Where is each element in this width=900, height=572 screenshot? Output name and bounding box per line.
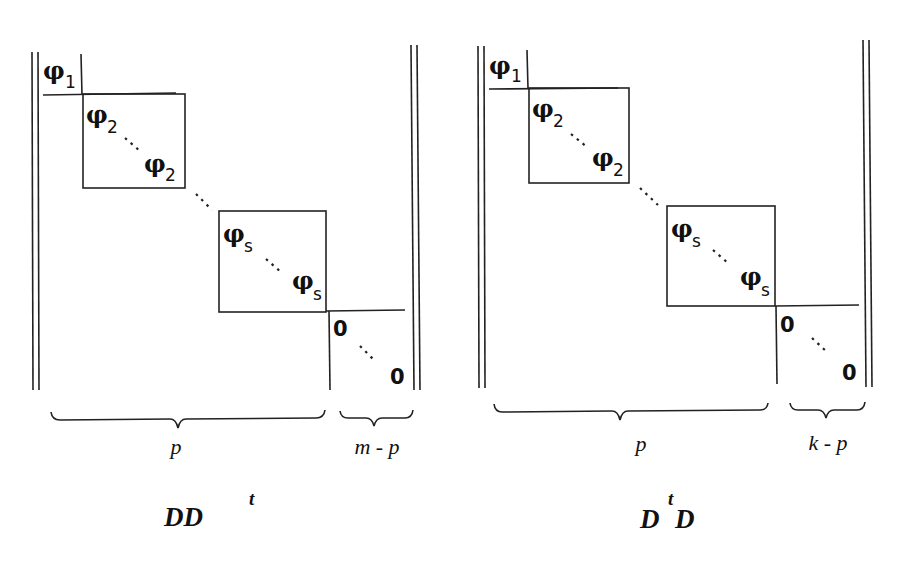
phi2-top-subscript: 2: [553, 111, 564, 131]
zero-top: 0: [333, 317, 348, 341]
phis-top-subscript: s: [244, 236, 253, 256]
inter-block-diagonal-ellipsis: [640, 188, 658, 205]
phi2-top-subscript: 2: [107, 117, 118, 137]
phi2-bottom-symbol: φ: [144, 149, 166, 178]
right-norm-bar-outer: [863, 40, 866, 387]
zero-diagonal-ellipsis: [360, 346, 374, 360]
caption-dd-t-base: DD: [163, 502, 203, 532]
right-norm-bar-inner: [417, 45, 420, 390]
phis-bottom-subscript: s: [761, 280, 770, 300]
brace-m-minus-p-label: m - p: [354, 434, 399, 459]
matrix-dt-d: φ 1 φ 2 φ 2 φ s φ s 0 0 p k - p D t D: [478, 40, 872, 534]
zero-bottom: 0: [842, 361, 857, 385]
phis-bottom-subscript: s: [313, 284, 322, 304]
zero-block-top-edge: [775, 305, 859, 306]
right-norm-bar-inner: [869, 40, 872, 387]
phis-diagonal-ellipsis: [713, 250, 728, 263]
phi1-block-right-edge: [527, 50, 528, 89]
phi1-symbol: φ: [43, 56, 65, 85]
phis-diagonal-ellipsis: [266, 259, 282, 273]
phi1-subscript: 1: [511, 66, 522, 86]
zero-block-left-edge: [329, 311, 330, 390]
phis-bottom-symbol: φ: [740, 262, 762, 291]
zero-block-top-edge: [326, 310, 405, 311]
brace-p-label: p: [634, 431, 647, 456]
brace-p: [51, 410, 325, 428]
zero-diagonal-ellipsis: [812, 338, 827, 352]
zero-top: 0: [780, 313, 795, 337]
phi2-bottom-subscript: 2: [613, 160, 624, 180]
caption-dt-d-right: D: [674, 504, 695, 534]
phi2-diagonal-ellipsis: [125, 138, 140, 151]
matrix-dd-t: φ 1 φ 2 φ 2 φ s φ s 0 0 p m - p DD t: [32, 45, 420, 532]
phis-top-symbol: φ: [671, 214, 693, 243]
phi2-top-symbol: φ: [86, 100, 108, 129]
diagram-canvas: φ 1 φ 2 φ 2 φ s φ s 0 0 p m - p DD t: [0, 0, 900, 572]
phis-top-subscript: s: [692, 231, 701, 251]
brace-m-minus-p: [340, 410, 413, 426]
phis-top-symbol: φ: [223, 219, 245, 248]
left-norm-bar-inner: [484, 46, 485, 388]
brace-k-minus-p-label: k - p: [808, 430, 847, 455]
phis-bottom-symbol: φ: [292, 266, 314, 295]
phi1-subscript: 1: [65, 72, 76, 92]
brace-p: [494, 403, 768, 420]
brace-k-minus-p: [790, 402, 865, 418]
right-norm-bar-outer: [411, 45, 414, 390]
phi2-bottom-subscript: 2: [165, 165, 176, 185]
phi2-top-symbol: φ: [532, 94, 554, 123]
caption-dd-t-superscript: t: [249, 488, 255, 509]
left-norm-bar-inner: [38, 52, 39, 390]
phi2-diagonal-ellipsis: [571, 134, 587, 147]
zero-bottom: 0: [390, 365, 405, 389]
brace-p-label: p: [169, 434, 182, 459]
caption-dt-d-superscript: t: [668, 488, 674, 509]
zero-block-left-edge: [776, 306, 777, 384]
phi1-block-right-edge: [81, 54, 82, 95]
left-norm-bar-outer: [32, 52, 33, 390]
phi2-bottom-symbol: φ: [592, 143, 614, 172]
phi1-symbol: φ: [489, 51, 511, 80]
left-norm-bar-outer: [478, 46, 479, 388]
inter-block-diagonal-ellipsis: [196, 194, 212, 210]
caption-dt-d-left: D: [639, 504, 660, 534]
